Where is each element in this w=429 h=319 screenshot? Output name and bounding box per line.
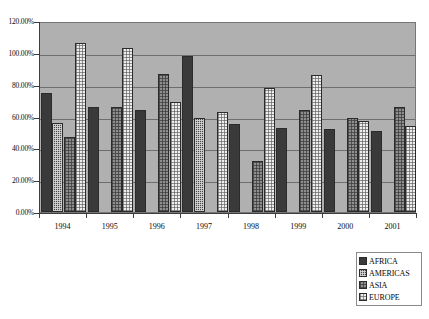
bar — [394, 107, 405, 212]
bar — [252, 161, 263, 212]
x-axis-tick — [180, 213, 181, 218]
y-axis-label: 60.00% — [0, 114, 34, 122]
legend-item-asia: ASIA — [359, 279, 419, 291]
bar — [182, 56, 193, 212]
x-axis-tick — [39, 213, 40, 218]
bar — [299, 110, 310, 212]
legend-label: EUROPE — [369, 293, 400, 302]
x-axis-tick — [133, 213, 134, 218]
bar — [324, 129, 335, 212]
bar — [41, 93, 52, 212]
y-axis-tick — [34, 86, 39, 87]
legend-label: AMERICAS — [369, 269, 410, 278]
bar — [358, 121, 369, 212]
x-axis-tick — [369, 213, 370, 218]
legend-item-americas: AMERICAS — [359, 267, 419, 279]
y-axis-label: 0.00% — [0, 209, 34, 217]
y-axis-line — [39, 22, 40, 214]
x-axis-tick — [275, 213, 276, 218]
y-axis-label: 80.00% — [0, 82, 34, 90]
bar — [135, 110, 146, 212]
x-axis-label: 1997 — [180, 222, 227, 232]
x-axis-tick — [322, 213, 323, 218]
legend-label: AFRICA — [369, 257, 398, 266]
bar — [264, 88, 275, 212]
gridline — [40, 87, 415, 88]
bar — [88, 107, 99, 212]
y-axis-tick — [34, 22, 39, 23]
legend-item-africa: AFRICA — [359, 255, 419, 267]
bar — [276, 128, 287, 212]
x-axis-tick — [86, 213, 87, 218]
y-axis-tick — [34, 149, 39, 150]
y-axis-tick — [34, 118, 39, 119]
x-axis-label: 2000 — [322, 222, 369, 232]
y-axis-label: 100.00% — [0, 50, 34, 58]
bar — [111, 107, 122, 212]
legend-swatch-europe — [359, 293, 367, 301]
bar — [229, 124, 240, 212]
x-axis-tick — [416, 213, 417, 218]
bar — [311, 75, 322, 212]
bar — [122, 48, 133, 212]
bar — [52, 123, 63, 212]
bar — [217, 112, 228, 212]
legend-swatch-africa — [359, 257, 367, 265]
x-axis-label: 1998 — [228, 222, 275, 232]
bar — [347, 118, 358, 212]
legend-swatch-asia — [359, 281, 367, 289]
y-axis-label: 120.00% — [0, 18, 34, 26]
gridline — [40, 55, 415, 56]
y-axis-tick — [34, 181, 39, 182]
bar — [405, 126, 416, 212]
y-axis-tick — [34, 54, 39, 55]
chart-legend: AFRICAAMERICASASIAEUROPE — [356, 252, 422, 306]
plot-area — [39, 22, 416, 213]
x-axis-label: 1999 — [275, 222, 322, 232]
legend-label: ASIA — [369, 281, 387, 290]
bar — [75, 43, 86, 212]
legend-swatch-americas — [359, 269, 367, 277]
x-axis-label: 2001 — [369, 222, 416, 232]
x-axis-label: 1994 — [39, 222, 86, 232]
x-axis-label: 1996 — [133, 222, 180, 232]
bar — [371, 131, 382, 212]
y-axis-label: 20.00% — [0, 177, 34, 185]
x-axis-tick — [228, 213, 229, 218]
legend-item-europe: EUROPE — [359, 291, 419, 303]
bar-chart: 0.00%20.00%40.00%60.00%80.00%100.00%120.… — [0, 0, 429, 319]
bar — [194, 118, 205, 212]
x-axis-label: 1995 — [86, 222, 133, 232]
bar — [64, 137, 75, 212]
y-axis-label: 40.00% — [0, 145, 34, 153]
bar — [158, 74, 169, 212]
bar — [170, 102, 181, 212]
